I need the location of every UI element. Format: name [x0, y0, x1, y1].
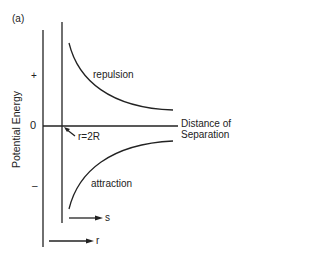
- r-arrowhead: [86, 239, 94, 244]
- r-label: r: [96, 235, 99, 246]
- s-arrowhead: [95, 216, 103, 221]
- attraction-curve: [69, 141, 173, 209]
- x-axis-label-line1: Distance of: [181, 118, 231, 129]
- attraction-label: attraction: [91, 178, 132, 189]
- s-label: s: [105, 212, 110, 223]
- repulsion-label: repulsion: [93, 69, 134, 80]
- x-axis-label-line2: Separation: [181, 129, 229, 140]
- marker-label: r=2R: [78, 131, 100, 142]
